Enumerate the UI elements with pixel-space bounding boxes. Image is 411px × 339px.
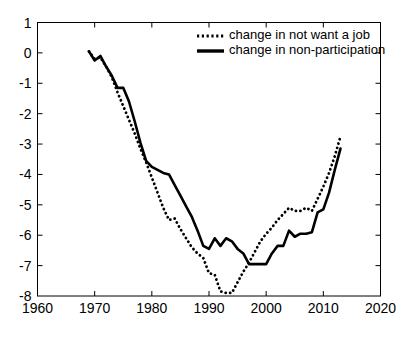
y-tick-label: -5 <box>19 197 32 213</box>
chart-legend: change in not want a jobchange in non-pa… <box>197 27 385 57</box>
y-tick-label: -6 <box>19 227 32 243</box>
y-axis-ticks <box>38 53 381 266</box>
y-tick-label: -1 <box>19 75 32 91</box>
x-tick-label: 1990 <box>193 300 224 316</box>
legend-label: change in not want a job <box>229 27 370 42</box>
y-axis-tick-labels: 10-1-2-3-4-5-6-7-8 <box>19 15 32 305</box>
y-tick-label: -3 <box>19 136 32 152</box>
x-axis-ticks <box>95 23 324 297</box>
series-line-not-want-a-job <box>89 51 341 293</box>
y-tick-label: -7 <box>19 258 32 274</box>
x-tick-label: 1970 <box>79 300 110 316</box>
y-tick-label: -8 <box>19 288 32 304</box>
y-tick-label: 1 <box>24 15 32 31</box>
x-tick-label: 1980 <box>136 300 167 316</box>
legend-label: change in non-participation <box>229 42 385 57</box>
x-tick-label: 2010 <box>308 300 339 316</box>
axes-frame <box>38 23 381 297</box>
y-tick-label: 0 <box>24 45 32 61</box>
plot-border <box>38 23 381 297</box>
chart-figure: 1960197019801990200020102020 10-1-2-3-4-… <box>0 0 411 339</box>
data-series-group <box>89 51 341 293</box>
y-tick-label: -2 <box>19 106 32 122</box>
x-axis-tick-labels: 1960197019801990200020102020 <box>22 300 396 316</box>
y-tick-label: -4 <box>19 166 32 182</box>
x-tick-label: 2000 <box>251 300 282 316</box>
series-line-non-participation <box>89 51 341 264</box>
x-tick-label: 2020 <box>365 300 396 316</box>
line-chart: 1960197019801990200020102020 10-1-2-3-4-… <box>0 0 411 339</box>
